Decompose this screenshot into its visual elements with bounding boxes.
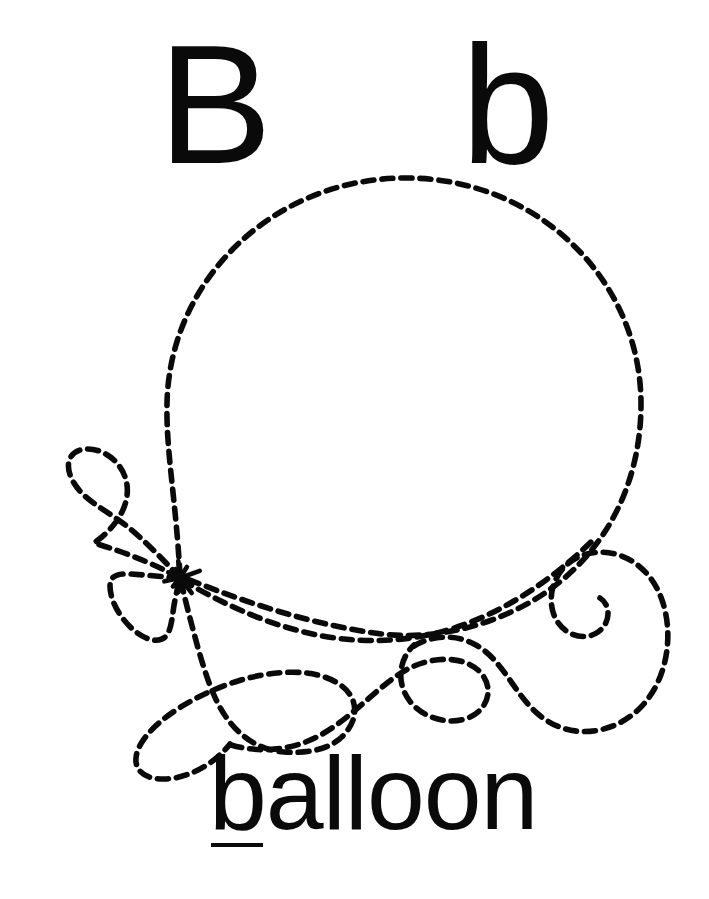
string-knot-leaf: [110, 574, 180, 640]
string-upper-left-loop: [68, 449, 180, 578]
word-label: balloon: [209, 741, 537, 845]
string-right-spiral: [414, 552, 668, 731]
lowercase-letter: b: [461, 21, 554, 189]
word-first-letter-underline: [211, 843, 263, 847]
string-center-wave: [182, 542, 591, 641]
worksheet-page: .d{ fill:none; stroke:#0a0a0a; stroke-wi…: [0, 0, 709, 899]
string-center-curl: [231, 645, 488, 750]
uppercase-letter: B: [158, 21, 272, 189]
balloon-outline: [167, 178, 641, 635]
